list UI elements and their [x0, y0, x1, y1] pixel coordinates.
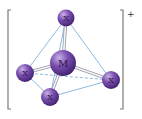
tetrahedral-diagram: + XXMXX	[0, 0, 142, 119]
atom-label: M	[58, 58, 68, 69]
edge-x-bottom-x-right	[50, 80, 111, 97]
atoms: XXMXX	[16, 10, 120, 107]
ligand-atom-x-right: X	[102, 71, 120, 89]
atom-label: X	[22, 69, 28, 78]
atom-label: X	[63, 14, 69, 23]
ligand-atom-x-left: X	[16, 64, 34, 82]
central-atom-m: M	[50, 50, 76, 76]
charge-label: +	[127, 9, 135, 19]
left-bracket	[8, 10, 11, 109]
right-bracket	[120, 10, 123, 109]
ligand-atom-x-top: X	[58, 10, 75, 27]
atom-label: X	[108, 76, 114, 85]
ligand-atom-x-bottom: X	[41, 88, 59, 106]
atom-label: X	[47, 93, 53, 102]
